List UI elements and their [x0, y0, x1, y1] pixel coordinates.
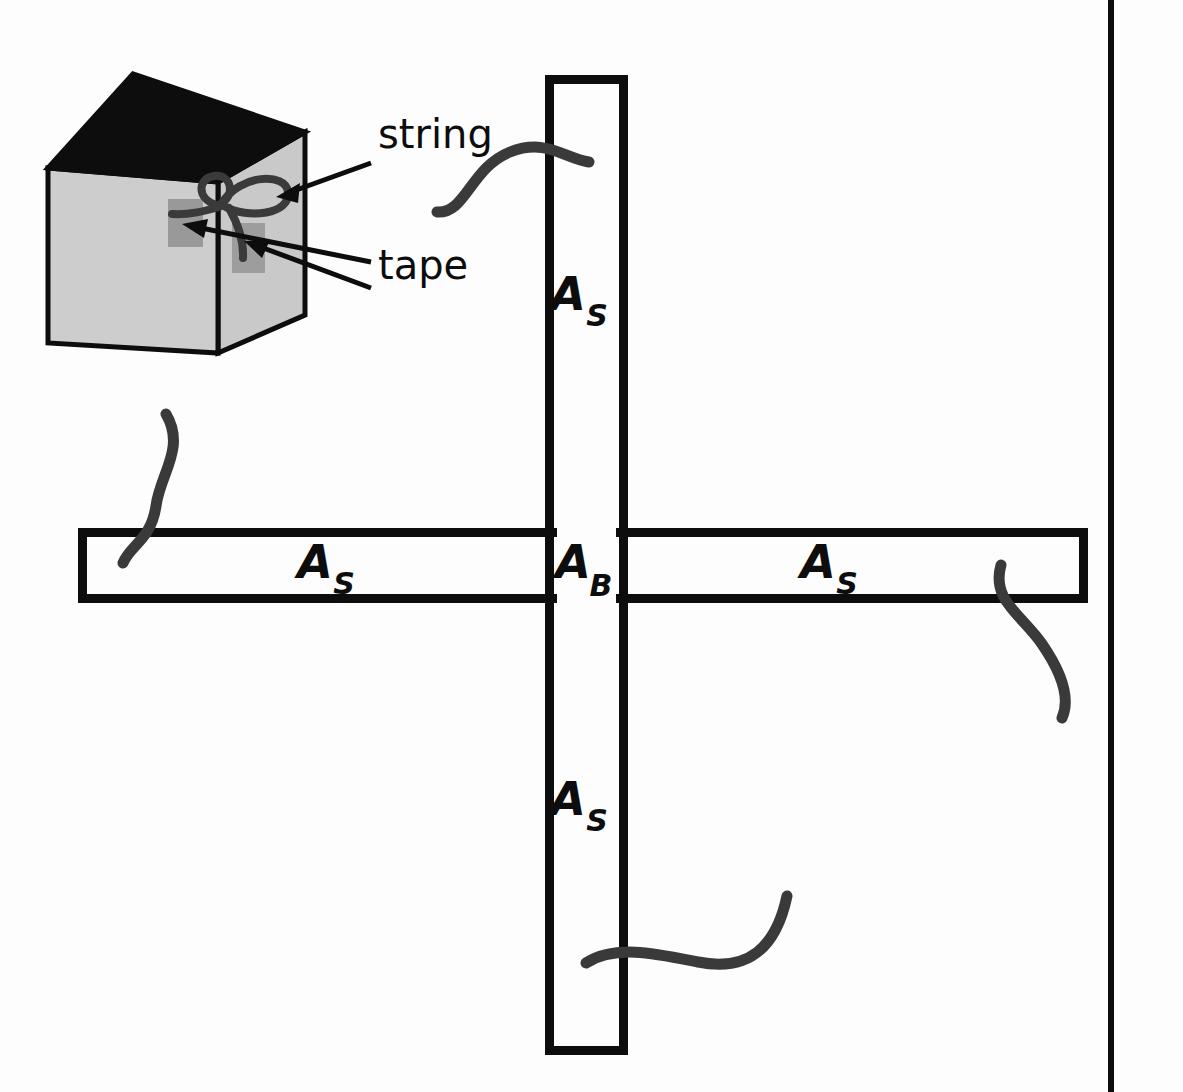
figure-root: string tape	[0, 0, 1183, 1092]
horizontal-strip-top-wall-right	[616, 528, 1088, 537]
label-horizontal-right-sub: S	[836, 566, 858, 601]
label-vertical-lower-main: A	[547, 772, 586, 826]
label-junction-main: A	[552, 535, 591, 589]
label-vertical-upper-sub: S	[586, 298, 608, 333]
horizontal-strip-bottom-wall-left	[78, 594, 557, 603]
horizontal-strip-left-cap	[78, 528, 87, 603]
label-horizontal-left-main: A	[294, 535, 333, 589]
string-callout-label: string	[378, 111, 493, 157]
vertical-strip-bottom-cap	[545, 1046, 628, 1055]
horizontal-strip-right-cap	[1079, 528, 1088, 603]
page-edge-rule	[1108, 0, 1114, 1092]
tape-callout-label: tape	[378, 242, 468, 288]
cube-front-face	[48, 168, 218, 353]
label-vertical-upper-main: A	[547, 267, 586, 321]
label-horizontal-right-main: A	[797, 535, 836, 589]
label-vertical-lower-sub: S	[586, 803, 608, 838]
vertical-strip-top-cap	[545, 75, 628, 84]
label-junction-sub: B	[590, 568, 613, 603]
label-horizontal-left-sub: S	[333, 566, 355, 601]
apparatus-diagram: string tape	[0, 0, 1183, 1092]
vertical-strip-right-wall	[619, 75, 628, 1055]
vertical-strip-left-wall	[545, 75, 554, 1055]
